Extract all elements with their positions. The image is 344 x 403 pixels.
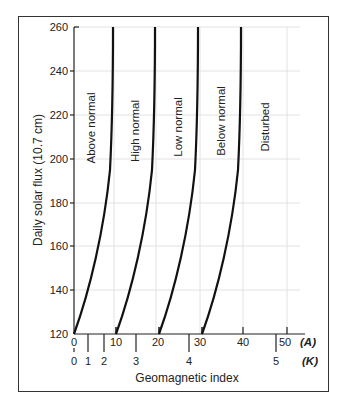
svg-text:5: 5 (273, 355, 279, 367)
svg-text:1: 1 (85, 355, 91, 367)
svg-text:4: 4 (186, 355, 192, 367)
y-axis-title: Daily solar flux (10.7 cm) (31, 114, 45, 246)
svg-text:200: 200 (50, 153, 68, 165)
svg-text:10: 10 (110, 336, 122, 348)
x-axis-title: Geomagnetic index (135, 371, 238, 385)
svg-text:Below normal: Below normal (215, 86, 227, 156)
svg-text:160: 160 (50, 240, 68, 252)
svg-text:Disturbed: Disturbed (259, 102, 271, 151)
curve-3 (159, 27, 198, 334)
k-scale-label: (K) (302, 355, 318, 367)
svg-text:120: 120 (50, 328, 68, 340)
svg-text:140: 140 (50, 284, 68, 296)
svg-text:240: 240 (50, 65, 68, 77)
curve-1 (74, 27, 113, 334)
svg-text:260: 260 (50, 21, 68, 33)
y-tick-labels: 260 240 220 200 180 160 140 120 (50, 21, 68, 340)
chart: 260 240 220 200 180 160 140 120 Daily so… (0, 0, 344, 403)
svg-text:High normal: High normal (129, 100, 141, 162)
svg-text:0: 0 (71, 336, 77, 348)
svg-text:3: 3 (133, 355, 139, 367)
x-axis (74, 327, 305, 352)
k-tick-labels: 0 1 2 3 4 5 (71, 355, 279, 367)
svg-text:220: 220 (50, 109, 68, 121)
svg-text:2: 2 (101, 355, 107, 367)
svg-text:50: 50 (279, 336, 291, 348)
svg-text:Low normal: Low normal (172, 97, 184, 156)
y-axis (70, 27, 79, 334)
svg-text:180: 180 (50, 197, 68, 209)
svg-text:40: 40 (237, 336, 249, 348)
svg-text:0: 0 (71, 355, 77, 367)
curve-base-marks (116, 327, 202, 334)
curve-4 (202, 27, 241, 334)
boundary-curves (74, 27, 241, 334)
svg-text:30: 30 (194, 336, 206, 348)
svg-text:20: 20 (152, 336, 164, 348)
a-scale-label: (A) (300, 336, 316, 348)
svg-text:Above normal: Above normal (85, 93, 97, 164)
curve-2 (116, 27, 155, 334)
